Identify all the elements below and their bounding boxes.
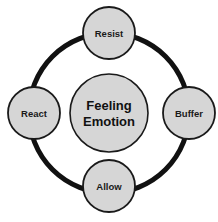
center-node-circle [70, 74, 148, 152]
node-allow-label: Allow [96, 181, 122, 192]
diagram-canvas: Feeling Emotion Resist Buffer Allow Reac… [0, 0, 218, 222]
node-allow[interactable]: Allow [83, 160, 135, 212]
center-node-label-line2: Emotion [83, 114, 135, 129]
center-node[interactable]: Feeling Emotion [70, 74, 148, 152]
center-node-label-line1: Feeling [86, 98, 132, 113]
node-buffer[interactable]: Buffer [163, 87, 215, 139]
node-react-label: React [21, 108, 48, 119]
node-resist[interactable]: Resist [83, 7, 135, 59]
node-react[interactable]: React [8, 87, 60, 139]
node-resist-label: Resist [95, 28, 124, 39]
node-buffer-label: Buffer [175, 108, 203, 119]
feeling-emotion-cycle-diagram: Feeling Emotion Resist Buffer Allow Reac… [0, 0, 218, 222]
